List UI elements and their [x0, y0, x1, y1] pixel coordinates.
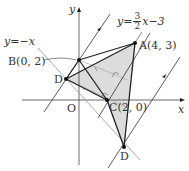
y-axis-label: y	[69, 4, 75, 15]
x-axis-arrow-icon	[180, 98, 185, 102]
label-point-d-left: D	[54, 74, 63, 85]
label-point-c: C(2, 0)	[109, 102, 147, 113]
parallel-arrow-icon	[97, 27, 101, 31]
equation-three-halves: y=32x−3	[117, 12, 165, 31]
fraction: 32	[133, 12, 141, 31]
point-d-lower	[122, 145, 126, 149]
y-axis-arrow-icon	[77, 7, 81, 12]
equation-prefix: y=	[117, 15, 132, 28]
label-point-b: B(0, 2)	[8, 56, 46, 67]
label-point-d-lower: D	[120, 151, 129, 162]
point-a	[133, 41, 137, 45]
fraction-denominator: 2	[134, 22, 140, 31]
equation-y-neg-x: y=−x	[4, 36, 35, 47]
equation-suffix: x−3	[142, 15, 164, 28]
x-axis-label: x	[178, 104, 184, 115]
parallel-arrow-icon-2	[162, 74, 166, 78]
origin-label: O	[67, 103, 76, 114]
geometry-figure: y x O y=−x y=32x−3 A(4, 3) B(0, 2) C(2, …	[0, 0, 189, 171]
label-point-a: A(4, 3)	[139, 40, 177, 51]
point-b	[77, 58, 81, 62]
point-d-left	[64, 77, 68, 81]
